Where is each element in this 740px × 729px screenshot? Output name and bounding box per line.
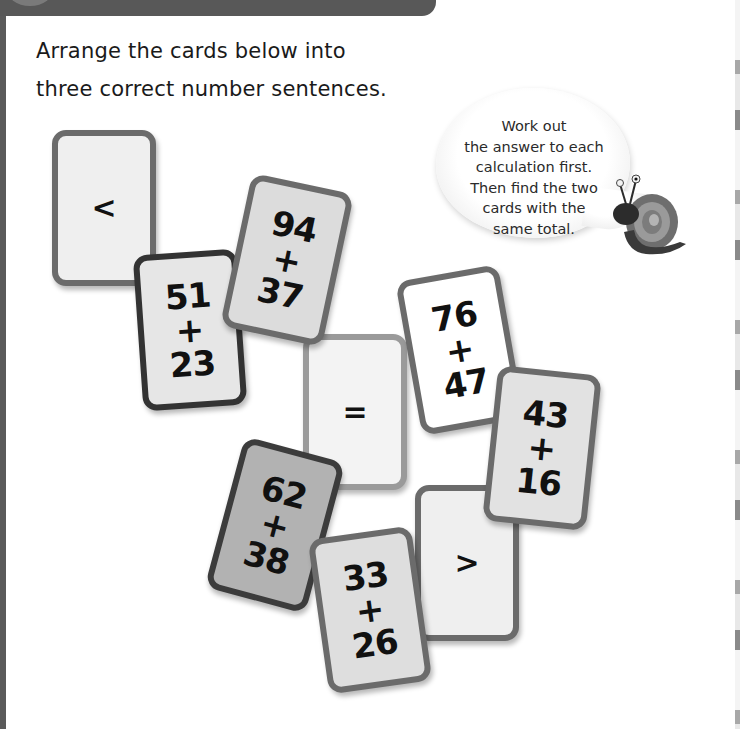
header-bar: [0, 0, 436, 16]
card-bottom-number: 16: [514, 461, 563, 504]
card-bottom-number: 37: [254, 270, 306, 317]
instruction-line-2: three correct number sentences.: [36, 70, 416, 108]
hint-line-1: Work out: [444, 116, 624, 137]
hint-text: Work out the answer to each calculation …: [444, 116, 624, 239]
card-operator: +: [175, 314, 206, 346]
card-bottom-number: 26: [350, 622, 400, 666]
page-left-border: [0, 0, 6, 729]
card-operator: +: [526, 432, 557, 465]
card-94-plus-37[interactable]: 94 + 37: [220, 173, 354, 347]
hint-line-2: the answer to each: [444, 137, 624, 158]
instruction-line-1: Arrange the cards below into: [36, 32, 416, 70]
card-symbol: >: [454, 548, 479, 578]
hint-line-4: Then find the two: [444, 178, 624, 199]
hint-line-6: same total.: [444, 219, 624, 240]
hint-line-5: cards with the: [444, 198, 624, 219]
card-bottom-number: 47: [440, 361, 491, 406]
instructions: Arrange the cards below into three corre…: [36, 32, 416, 108]
card-43-plus-16[interactable]: 43 + 16: [482, 365, 602, 531]
hint-line-3: calculation first.: [444, 157, 624, 178]
card-symbol: <: [91, 193, 116, 223]
page-right-edge: [735, 0, 740, 729]
header-circle-decoration: [6, 0, 54, 6]
snail-icon: [600, 170, 688, 260]
card-33-plus-26[interactable]: 33 + 26: [308, 526, 433, 695]
card-bottom-number: 23: [168, 343, 216, 384]
card-symbol: =: [342, 397, 367, 427]
